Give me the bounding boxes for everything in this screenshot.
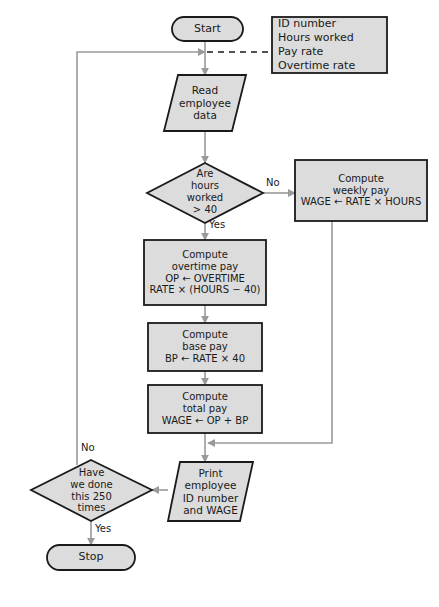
- shape-read-data-io[interactable]: [164, 75, 246, 131]
- flowchart-canvas: Start ID number Hours worked Pay rate Ov…: [0, 0, 439, 607]
- shape-count-decision[interactable]: [31, 460, 152, 521]
- flowchart-graphics: [0, 0, 439, 607]
- shape-print-io[interactable]: [168, 462, 253, 521]
- shape-stop-terminal[interactable]: [47, 545, 135, 570]
- shape-start-terminal[interactable]: [172, 17, 243, 41]
- shape-hours-decision[interactable]: [147, 163, 263, 223]
- shape-base-pay-process[interactable]: [148, 323, 262, 371]
- shape-annotation-box[interactable]: [272, 17, 387, 73]
- shape-weekly-pay-process[interactable]: [295, 160, 427, 221]
- shape-total-pay-process[interactable]: [148, 385, 262, 433]
- shape-overtime-pay-process[interactable]: [144, 240, 266, 305]
